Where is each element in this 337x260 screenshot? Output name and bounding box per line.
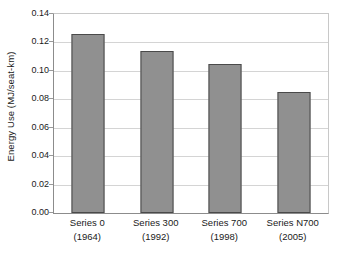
x-axis-tick-label: Series 300(1992) xyxy=(122,216,191,244)
x-axis-tick-label-name: Series N700 xyxy=(259,216,328,230)
bar[interactable] xyxy=(72,34,105,213)
x-axis-tick-labels: Series 0(1964)Series 300(1992)Series 700… xyxy=(53,216,327,258)
x-axis-tick-label-year: (2005) xyxy=(259,230,328,244)
bar-chart: Energy Use (MJ/seat-km) 0.000.020.040.06… xyxy=(0,0,337,260)
y-axis-tick-labels: 0.000.020.040.060.080.100.120.14 xyxy=(18,0,49,260)
y-axis-tick-label: 0.08 xyxy=(19,93,49,103)
bar-slot xyxy=(191,14,260,213)
y-axis-tick-label: 0.02 xyxy=(19,179,49,189)
y-axis-title-text: Energy Use (MJ/seat-km) xyxy=(5,51,16,161)
bar[interactable] xyxy=(209,64,242,213)
bar[interactable] xyxy=(140,51,173,213)
y-axis-tick-mark xyxy=(49,155,53,156)
x-axis-tick-label-name: Series 300 xyxy=(122,216,191,230)
y-axis-tick-label: 0.10 xyxy=(19,65,49,75)
bars-layer xyxy=(54,14,328,213)
y-axis-title: Energy Use (MJ/seat-km) xyxy=(0,0,20,212)
x-axis-tick-label: Series 700(1998) xyxy=(190,216,259,244)
bar-slot xyxy=(260,14,329,213)
bar[interactable] xyxy=(277,92,310,213)
y-axis-tick-mark xyxy=(49,41,53,42)
y-axis-tick-mark xyxy=(49,70,53,71)
y-axis-tick-mark xyxy=(49,212,53,213)
x-axis-tick-label-year: (1998) xyxy=(190,230,259,244)
x-axis-tick-label-year: (1992) xyxy=(122,230,191,244)
x-axis-tick-label-name: Series 700 xyxy=(190,216,259,230)
x-axis-tick-label: Series N700(2005) xyxy=(259,216,328,244)
y-axis-tick-label: 0.14 xyxy=(19,8,49,18)
y-axis-tick-label: 0.12 xyxy=(19,36,49,46)
y-axis-tick-mark xyxy=(49,98,53,99)
y-axis-tick-mark xyxy=(49,13,53,14)
y-axis-tick-label: 0.00 xyxy=(19,207,49,217)
plot-area xyxy=(53,13,329,214)
x-axis-tick-label: Series 0(1964) xyxy=(53,216,122,244)
y-axis-tick-label: 0.06 xyxy=(19,122,49,132)
bar-slot xyxy=(123,14,192,213)
y-axis-tick-mark xyxy=(49,184,53,185)
y-axis-tick-mark xyxy=(49,127,53,128)
bar-slot xyxy=(54,14,123,213)
x-axis-tick-label-year: (1964) xyxy=(53,230,122,244)
x-axis-tick-label-name: Series 0 xyxy=(53,216,122,230)
y-axis-tick-label: 0.04 xyxy=(19,150,49,160)
